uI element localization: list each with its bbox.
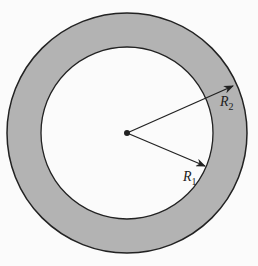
annulus-diagram: R2 R1 [0, 0, 258, 266]
diagram-canvas: R2 R1 [0, 0, 258, 266]
